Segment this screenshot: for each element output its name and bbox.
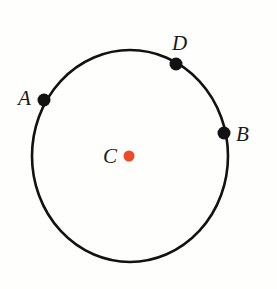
point-label-b: B	[236, 122, 249, 146]
point-dot-a	[38, 94, 51, 107]
center-point-dot	[124, 151, 135, 162]
center-point-label: C	[103, 144, 118, 168]
point-dot-d	[170, 58, 183, 71]
diagram-canvas: A D B C	[0, 0, 277, 289]
circle-diagram-figure: A D B C	[0, 0, 277, 289]
point-dot-b	[218, 127, 231, 140]
point-label-d: D	[171, 31, 187, 55]
point-label-a: A	[16, 86, 31, 110]
